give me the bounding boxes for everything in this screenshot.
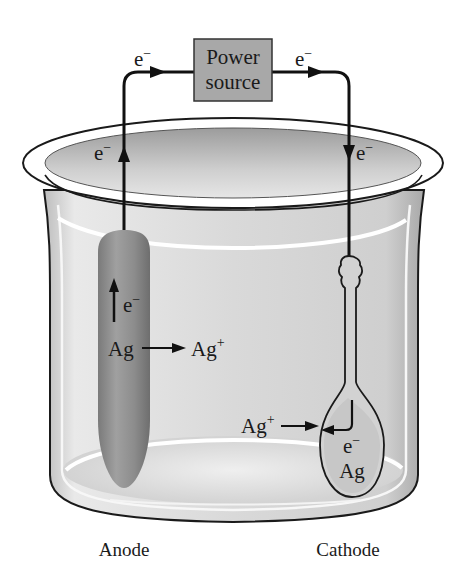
power-source-line2: source [206,70,261,94]
power-source-line1: Power [206,45,260,69]
arrow-right-top-icon [308,66,324,78]
cathode-caption: Cathode [316,539,379,560]
cathode-deposit-label: Ag [339,459,365,483]
arrow-left-top-icon [150,66,166,78]
anode-caption: Anode [99,539,150,560]
power-source: Power source [194,39,272,101]
anode-reactant-label: Ag [108,337,134,361]
electroplating-diagram: Power source e− e− e− e− e− Ag Ag+ e− Ag… [0,0,466,570]
electron-label-top-left: e− [134,46,151,71]
